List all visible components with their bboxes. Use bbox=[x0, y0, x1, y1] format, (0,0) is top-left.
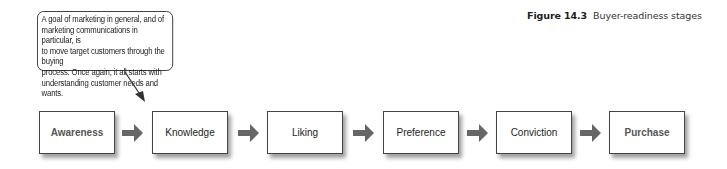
stage-label: Conviction bbox=[511, 127, 558, 138]
stage-label: Purchase bbox=[624, 127, 669, 138]
stage-label: Liking bbox=[292, 127, 318, 138]
block-arrow-icon bbox=[121, 121, 145, 145]
stage-conviction: Conviction bbox=[496, 111, 572, 154]
stage-awareness: Awareness bbox=[39, 111, 115, 154]
block-arrow-icon bbox=[579, 121, 603, 145]
callout-text: A goal of marketing in general, and of m… bbox=[42, 14, 170, 99]
figure-title: Buyer-readiness stages bbox=[593, 10, 702, 21]
stage-label: Awareness bbox=[51, 127, 104, 138]
figure-number: Figure 14.3 bbox=[527, 10, 587, 21]
figure-caption: Figure 14.3Buyer-readiness stages bbox=[527, 10, 702, 21]
stage-label: Knowledge bbox=[165, 127, 214, 138]
stage-label: Preference bbox=[397, 127, 446, 138]
block-arrow-icon bbox=[352, 121, 376, 145]
stage-liking: Liking bbox=[267, 111, 343, 154]
stage-purchase: Purchase bbox=[609, 111, 685, 154]
stage-preference: Preference bbox=[383, 111, 459, 154]
stage-knowledge: Knowledge bbox=[152, 111, 228, 154]
block-arrow-icon bbox=[237, 121, 261, 145]
block-arrow-icon bbox=[466, 121, 490, 145]
callout-box: A goal of marketing in general, and of m… bbox=[37, 11, 173, 71]
